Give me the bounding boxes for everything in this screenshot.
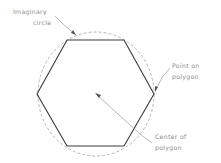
hexagon-polygon bbox=[37, 40, 154, 146]
center-of-polygon-leader bbox=[96, 94, 152, 143]
center-of-polygon-label-line1: Center of bbox=[155, 133, 187, 140]
diagram-canvas: Imaginary circle Point on polygon Center… bbox=[0, 0, 221, 163]
imaginary-circle-label-line2: circle bbox=[33, 19, 51, 26]
point-on-polygon-label-line2: polygon bbox=[172, 73, 199, 81]
imaginary-circle-label-line1: Imaginary bbox=[13, 8, 47, 16]
arrowhead-icon bbox=[155, 86, 158, 92]
point-on-polygon-label-line1: Point on bbox=[172, 62, 199, 69]
center-of-polygon-label-line2: polygon bbox=[155, 144, 182, 152]
arrowhead-icon bbox=[95, 93, 101, 98]
arrowhead-icon bbox=[71, 30, 76, 35]
